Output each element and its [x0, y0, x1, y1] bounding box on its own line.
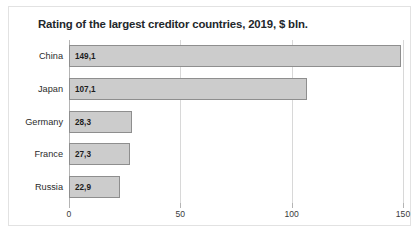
bar[interactable]: 28,3 [69, 111, 132, 133]
x-tick-label: 50 [176, 209, 186, 219]
x-tick-mark [403, 203, 404, 208]
gridline [403, 40, 404, 203]
bar-row: 22,9Russia [69, 176, 403, 198]
bar[interactable]: 107,1 [69, 78, 307, 100]
x-tick-mark [292, 203, 293, 208]
category-label-france: France [34, 149, 63, 159]
x-tick-mark [180, 203, 181, 208]
x-tick-label: 0 [67, 209, 72, 219]
bar-row: 27,3France [69, 143, 403, 165]
category-label-russia: Russia [35, 182, 63, 192]
bar-row: 28,3Germany [69, 111, 403, 133]
x-tick-label: 100 [284, 209, 298, 219]
chart-title: Rating of the largest creditor countries… [38, 18, 308, 30]
x-tick-mark [69, 203, 70, 208]
bar[interactable]: 22,9 [69, 176, 120, 198]
bar-value-label: 22,9 [75, 182, 91, 191]
category-label-japan: Japan [38, 84, 63, 94]
bar-value-label: 27,3 [75, 150, 91, 159]
bar-row: 149,1China [69, 45, 403, 67]
plot-area: 149,1China107,1Japan28,3Germany27,3Franc… [69, 40, 403, 203]
x-tick-label: 150 [396, 209, 410, 219]
bar-row: 107,1Japan [69, 78, 403, 100]
chart-card: Rating of the largest creditor countries… [8, 6, 411, 226]
category-label-germany: Germany [25, 117, 63, 127]
category-label-china: China [39, 51, 63, 61]
bar-value-label: 28,3 [75, 117, 91, 126]
bar-value-label: 149,1 [75, 52, 96, 61]
bar[interactable]: 27,3 [69, 143, 130, 165]
bar-value-label: 107,1 [75, 84, 96, 93]
bar[interactable]: 149,1 [69, 45, 401, 67]
